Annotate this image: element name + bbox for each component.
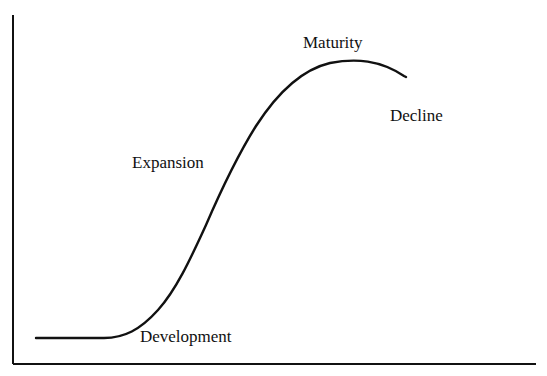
life-cycle-curve: [36, 61, 406, 338]
stage-label-decline: Decline: [390, 107, 443, 124]
diagram-canvas: [0, 0, 547, 376]
stage-label-development: Development: [140, 328, 232, 345]
stage-label-expansion: Expansion: [132, 154, 204, 171]
stage-label-maturity: Maturity: [303, 34, 363, 51]
life-cycle-diagram: Maturity Decline Expansion Development: [0, 0, 547, 376]
